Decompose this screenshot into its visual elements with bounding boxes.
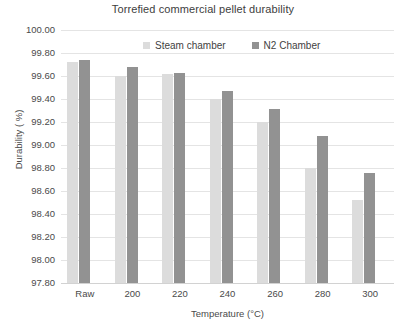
x-axis-title: Temperature (°C): [61, 308, 394, 319]
bar-steam: [115, 76, 126, 283]
x-axis-tick-label: 200: [109, 288, 157, 299]
bar-n2: [127, 67, 138, 283]
x-axis-tick-label: 300: [346, 288, 394, 299]
y-axis-tick-label: 99.00: [13, 139, 55, 150]
y-axis-tick-label: 98.40: [13, 208, 55, 219]
y-axis-tick-label: 98.20: [13, 231, 55, 242]
bar-n2: [364, 173, 375, 283]
x-axis-tick-labels: Raw200220240260280300: [61, 288, 394, 302]
chart-legend: Steam chamberN2 Chamber: [143, 40, 320, 51]
x-axis-tick-label: 240: [204, 288, 252, 299]
bar-chart: Torrefied commercial pellet durability D…: [0, 0, 406, 328]
chart-title: Torrefied commercial pellet durability: [0, 3, 406, 15]
y-axis-tick-label: 98.60: [13, 185, 55, 196]
x-axis-line: [61, 283, 394, 284]
bar-n2: [174, 73, 185, 283]
bar-steam: [210, 99, 221, 283]
legend-entry[interactable]: N2 Chamber: [252, 40, 321, 51]
y-axis-tick-label: 99.80: [13, 47, 55, 58]
x-axis-tick-label: 280: [299, 288, 347, 299]
bar-group: [204, 30, 252, 283]
bar-group: [109, 30, 157, 283]
bar-group: [251, 30, 299, 283]
plot-area: [61, 30, 394, 283]
legend-label: Steam chamber: [155, 40, 226, 51]
x-axis-tick-label: Raw: [61, 288, 109, 299]
y-axis-tick-label: 99.40: [13, 93, 55, 104]
legend-entry[interactable]: Steam chamber: [143, 40, 226, 51]
bar-steam: [257, 122, 268, 283]
bar-group: [156, 30, 204, 283]
y-axis-tick-label: 98.00: [13, 254, 55, 265]
bar-n2: [222, 91, 233, 283]
bar-n2: [269, 109, 280, 283]
bar-n2: [317, 136, 328, 283]
y-axis-tick-label: 99.60: [13, 70, 55, 81]
bar-steam: [67, 62, 78, 283]
bar-steam: [305, 168, 316, 283]
legend-swatch-icon: [252, 42, 259, 49]
x-axis-tick-label: 260: [251, 288, 299, 299]
bar-steam: [352, 200, 363, 283]
y-axis-tick-label: 97.80: [13, 277, 55, 288]
y-axis-tick-label: 98.80: [13, 162, 55, 173]
bar-group: [61, 30, 109, 283]
bar-steam: [162, 74, 173, 283]
bar-group: [346, 30, 394, 283]
bar-group: [299, 30, 347, 283]
x-axis-tick-label: 220: [156, 288, 204, 299]
bar-n2: [79, 60, 90, 283]
y-axis-tick-label: 99.20: [13, 116, 55, 127]
y-axis-tick-label: 100.00: [13, 24, 55, 35]
y-axis-tick-labels: 100.0099.8099.6099.4099.2099.0098.8098.6…: [9, 30, 55, 283]
legend-swatch-icon: [143, 42, 150, 49]
legend-label: N2 Chamber: [264, 40, 321, 51]
